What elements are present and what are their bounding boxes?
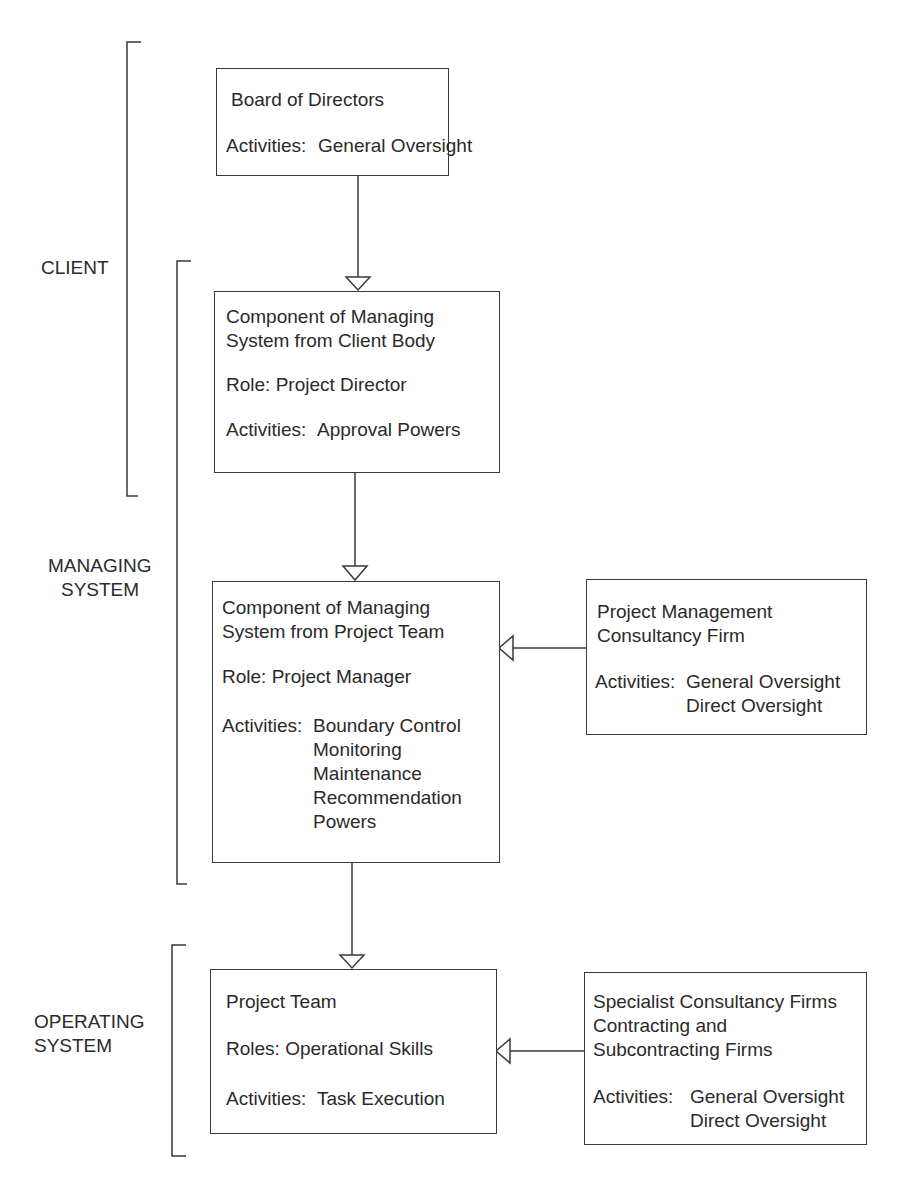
box-board-of-directors	[216, 68, 449, 176]
group-label-client: CLIENT	[41, 256, 109, 280]
group-label-managing-line2: SYSTEM	[61, 578, 139, 602]
pm-firm-title-1: Project Management	[597, 600, 772, 624]
activity-item: Direct Oversight	[690, 1109, 844, 1133]
team-component-role: Role: Project Manager	[222, 665, 411, 689]
client-component-title-1: Component of Managing	[226, 305, 434, 329]
team-component-title-2: System from Project Team	[222, 620, 444, 644]
pm-firm-activities-list: General Oversight Direct Oversight	[686, 670, 840, 718]
arrowhead-down-icon	[343, 566, 367, 580]
activity-item: Monitoring	[313, 738, 462, 762]
project-team-activity: Task Execution	[317, 1087, 445, 1111]
activity-item: General Oversight	[690, 1085, 844, 1109]
team-component-activities-list: Boundary Control Monitoring Maintenance …	[313, 714, 462, 834]
project-team-title: Project Team	[226, 990, 337, 1014]
activity-item: Maintenance	[313, 762, 462, 786]
project-team-role: Roles: Operational Skills	[226, 1037, 433, 1061]
team-component-title-1: Component of Managing	[222, 596, 430, 620]
board-title: Board of Directors	[231, 88, 384, 112]
activity-item: Recommendation	[313, 786, 462, 810]
client-component-role: Role: Project Director	[226, 373, 407, 397]
activity-item: Powers	[313, 810, 462, 834]
specialist-activities-label: Activities:	[593, 1085, 673, 1109]
arrowhead-down-icon	[340, 955, 364, 968]
specialist-title-1: Specialist Consultancy Firms	[593, 990, 837, 1014]
activity-item: General Oversight	[686, 670, 840, 694]
specialist-title-3: Subcontracting Firms	[593, 1038, 773, 1062]
group-label-operating-line2: SYSTEM	[34, 1034, 112, 1058]
client-component-activity: Approval Powers	[317, 418, 461, 442]
group-label-managing: MANAGING	[48, 554, 151, 578]
arrowhead-left-icon	[499, 636, 513, 660]
operating-bracket	[172, 945, 186, 1156]
pm-firm-activities-label: Activities:	[595, 670, 675, 694]
managing-bracket	[177, 261, 191, 884]
client-component-activities-label: Activities:	[226, 418, 306, 442]
activity-item: Boundary Control	[313, 714, 462, 738]
client-bracket	[127, 42, 141, 496]
pm-firm-title-2: Consultancy Firm	[597, 624, 745, 648]
arrowhead-left-icon	[496, 1039, 510, 1063]
specialist-title-2: Contracting and	[593, 1014, 727, 1038]
arrowhead-down-icon	[346, 277, 370, 290]
group-label-operating: OPERATING	[34, 1010, 145, 1034]
activity-item: Direct Oversight	[686, 694, 840, 718]
team-component-activities-label: Activities:	[222, 714, 302, 738]
client-component-title-2: System from Client Body	[226, 329, 435, 353]
board-activity: General Oversight	[318, 134, 472, 158]
board-activities-label: Activities:	[226, 134, 306, 158]
specialist-activities-list: General Oversight Direct Oversight	[690, 1085, 844, 1133]
project-team-activities-label: Activities:	[226, 1087, 306, 1111]
